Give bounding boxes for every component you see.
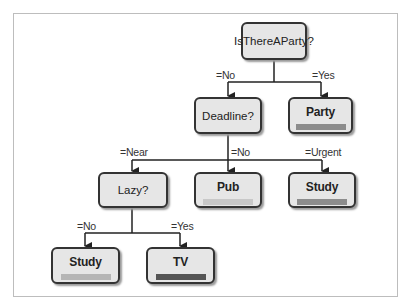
node-study-lazy-no: Study xyxy=(51,247,120,284)
edge-label-lazy-no: =No xyxy=(77,220,96,232)
node-pub: Pub xyxy=(194,172,262,208)
edge-label-deadline-urgent: =Urgent xyxy=(305,146,341,158)
node-study-urgent: Study xyxy=(288,172,356,208)
action-bar xyxy=(203,199,253,205)
node-deadline: Deadline? xyxy=(194,97,262,134)
action-bar xyxy=(61,274,111,280)
action-bar xyxy=(156,274,206,280)
node-label: Party xyxy=(306,105,335,119)
node-label: Study xyxy=(69,255,101,269)
edge-label-root-yes: =Yes xyxy=(312,69,334,81)
node-lazy: Lazy? xyxy=(98,172,168,208)
node-label: TV xyxy=(173,255,188,269)
edge-label-deadline-no: =No xyxy=(231,146,250,158)
node-label: Lazy? xyxy=(118,184,149,196)
node-label: IsThereAParty? xyxy=(234,35,314,47)
node-label: Pub xyxy=(217,180,239,194)
action-bar xyxy=(296,124,346,130)
node-is-there-a-party: IsThereAParty? xyxy=(241,22,307,60)
edge-label-lazy-yes: =Yes xyxy=(171,220,193,232)
action-bar xyxy=(297,199,347,205)
node-tv: TV xyxy=(146,247,215,284)
edge-label-deadline-near: =Near xyxy=(120,146,148,158)
edge-label-root-no: =No xyxy=(216,69,235,81)
node-party: Party xyxy=(288,97,353,134)
node-label: Study xyxy=(306,180,338,194)
node-label: Deadline? xyxy=(202,110,254,122)
